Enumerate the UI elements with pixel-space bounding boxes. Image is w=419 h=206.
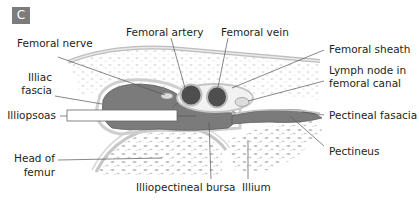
label-illiac-fascia-line1: Illiac	[28, 71, 52, 83]
lymph-node	[235, 98, 249, 107]
label-lymph-node-line2: femoral canal	[329, 77, 401, 89]
head-of-femur-shape	[98, 128, 222, 175]
label-femoral-sheath: Femoral sheath	[329, 43, 410, 55]
label-illiopsoas: Illiopsoas	[7, 109, 56, 121]
leader-illiac-fascia	[55, 96, 102, 104]
femoral-artery	[181, 85, 202, 106]
label-head-of-femur-line1: Head of	[14, 152, 55, 164]
label-lymph-node-line1: Lymph node in	[329, 64, 406, 76]
label-illium: Illium	[242, 181, 271, 193]
anatomy-diagram: Femoral nerve Femoral artery Femoral vei…	[0, 0, 419, 206]
illiopsoas-label-box	[67, 110, 177, 121]
femoral-vein	[207, 87, 227, 108]
illium-shape	[228, 120, 322, 172]
label-femoral-artery: Femoral artery	[126, 26, 203, 38]
label-femoral-nerve: Femoral nerve	[17, 37, 93, 49]
label-illiopectineal-bursa: Illiopectineal bursa	[136, 181, 236, 193]
label-pectineus: Pectineus	[329, 145, 379, 157]
label-illiac-fascia-line2: fascia	[21, 84, 52, 96]
label-pectineal-fascia: Pectineal fasacia	[329, 109, 417, 121]
label-head-of-femur-line2: femur	[24, 166, 56, 178]
label-femoral-vein: Femoral vein	[221, 26, 289, 38]
